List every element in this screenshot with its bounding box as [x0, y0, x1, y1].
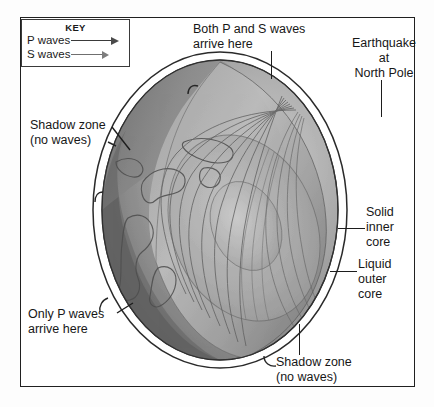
earth-cutaway-svg	[86, 50, 354, 370]
key-legend-box: KEY P waves S waves	[21, 19, 130, 67]
leader-solid-inner-core	[338, 228, 365, 229]
label-both-line1: Both P and S waves	[193, 22, 305, 37]
label-solid-inner-core: Solid inner core	[366, 205, 394, 250]
p-wave-arrow-icon	[71, 35, 129, 45]
earth-globe	[86, 50, 354, 370]
s-wave-arrow-icon	[71, 49, 129, 59]
leader-both-waves	[271, 51, 272, 79]
label-earthquake-line2: at	[352, 51, 416, 66]
label-both-line2: arrive here	[193, 37, 305, 52]
leader-shadow-zone-bottom	[299, 324, 300, 355]
label-shadow-bot-line2: (no waves)	[276, 370, 352, 385]
label-only-p-line2: arrive here	[28, 322, 104, 337]
leader-liquid-outer-core	[330, 271, 357, 272]
label-both-p-and-s-waves: Both P and S waves arrive here	[193, 22, 305, 52]
label-earthquake-north-pole: Earthquake at North Pole	[352, 36, 416, 81]
label-only-p-waves: Only P waves arrive here	[28, 307, 104, 337]
label-shadow-left-line2: (no waves)	[30, 133, 106, 148]
key-entry-p-waves: P waves	[22, 33, 129, 47]
label-only-p-line1: Only P waves	[28, 307, 104, 322]
label-shadow-left-line1: Shadow zone	[30, 118, 106, 133]
key-label-p-waves: P waves	[27, 34, 70, 47]
label-shadow-zone-left: Shadow zone (no waves)	[30, 118, 106, 148]
label-earthquake-line1: Earthquake	[352, 36, 416, 51]
label-shadow-bot-line1: Shadow zone	[276, 355, 352, 370]
label-liquid-line1: Liquid	[358, 257, 391, 272]
label-shadow-zone-bottom: Shadow zone (no waves)	[276, 355, 352, 385]
diagram-canvas: KEY P waves S waves Both P and S waves a…	[0, 0, 434, 407]
label-liquid-outer-core: Liquid outer core	[358, 257, 391, 302]
key-label-s-waves: S waves	[27, 48, 70, 61]
key-entry-s-waves: S waves	[22, 47, 129, 61]
label-solid-line1: Solid	[366, 205, 394, 220]
label-liquid-line2: outer	[358, 272, 391, 287]
key-title: KEY	[22, 22, 129, 33]
label-liquid-line3: core	[358, 287, 391, 302]
label-earthquake-line3: North Pole	[352, 66, 416, 81]
label-solid-line3: core	[366, 235, 394, 250]
leader-earthquake	[381, 80, 382, 117]
label-solid-line2: inner	[366, 220, 394, 235]
